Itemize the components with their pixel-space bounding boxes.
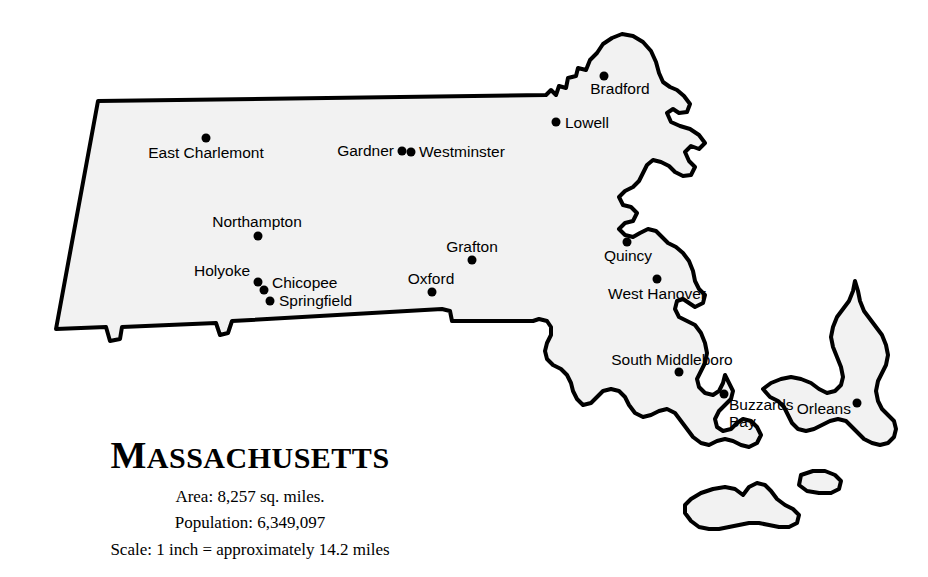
city-dot <box>653 275 662 284</box>
city-dot <box>398 147 407 156</box>
city-dot <box>675 368 684 377</box>
city-dot <box>254 232 263 241</box>
city-label: Oxford <box>408 270 455 287</box>
nantucket-island <box>799 471 841 493</box>
city-dot <box>468 256 477 265</box>
city-label: Bradford <box>590 80 649 97</box>
city-dot <box>202 134 211 143</box>
city-dot <box>260 286 269 295</box>
city-label: Holyoke <box>194 262 250 279</box>
city-dot <box>428 288 437 297</box>
scale-text: Scale: 1 inch = approximately 14.2 miles <box>0 537 500 563</box>
city-dot <box>552 118 561 127</box>
title-first-letter: M <box>110 434 146 476</box>
population-text: Population: 6,349,097 <box>0 510 500 536</box>
city-label: Orleans <box>797 400 851 417</box>
marthas-vineyard-island <box>685 483 799 529</box>
city-dot <box>853 399 862 408</box>
map-caption: MASSACHUSETTS Area: 8,257 sq. miles. Pop… <box>0 436 500 563</box>
city-label: Gardner <box>337 142 394 159</box>
city-label: Chicopee <box>272 274 338 291</box>
city-label: Lowell <box>565 114 609 131</box>
title-rest: ASSACHUSETTS <box>147 441 390 474</box>
city-label: Northampton <box>212 213 302 230</box>
city-label: West Hanover <box>608 285 706 302</box>
city-label: Springfield <box>279 292 352 309</box>
city-label: Grafton <box>446 238 498 255</box>
massachusetts-mainland-outline <box>56 34 761 447</box>
city-dot <box>600 72 609 81</box>
city-label: Westminster <box>419 143 505 160</box>
city-dot <box>266 297 275 306</box>
city-dot <box>407 148 416 157</box>
page-title: MASSACHUSETTS <box>0 436 500 474</box>
city-dot <box>720 390 729 399</box>
city-label: Quincy <box>604 247 652 264</box>
city-dot <box>623 238 632 247</box>
city-label: East Charlemont <box>148 144 263 161</box>
city-label: South Middleboro <box>611 351 733 368</box>
massachusetts-map-page: East CharlemontGardnerWestminsterBradfor… <box>0 0 928 577</box>
city-label: Buzzards Bay <box>729 396 794 431</box>
area-text: Area: 8,257 sq. miles. <box>0 484 500 510</box>
